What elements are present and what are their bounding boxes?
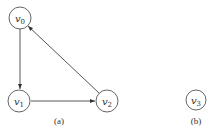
node-v2-sub: 2	[108, 101, 112, 109]
caption-a: (a)	[54, 116, 64, 126]
subfigure-a: v0 v1 v2 (a)	[8, 7, 118, 126]
node-v0-sub: 0	[21, 18, 25, 26]
node-v1: v1	[8, 90, 30, 112]
subfigure-b: v3 (b)	[186, 90, 206, 126]
node-v1-sub: 1	[20, 101, 24, 109]
node-v3: v3	[186, 90, 206, 110]
node-v0: v0	[9, 7, 31, 29]
node-v3-sub: 3	[197, 100, 201, 108]
caption-b: (b)	[191, 116, 202, 126]
graph-figure: v0 v1 v2 (a) v3 (b)	[0, 0, 215, 134]
node-v2: v2	[96, 90, 118, 112]
edge-v2-v0	[28, 26, 99, 93]
